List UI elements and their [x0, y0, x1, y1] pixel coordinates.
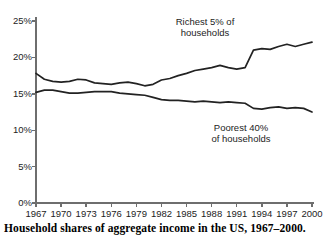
data-series-group: [36, 42, 312, 112]
chart-plot-area: 0%5%10%15%20%25% 19671970197319761979198…: [0, 0, 321, 216]
axes-group: [32, 17, 314, 207]
y-axis-tick-label: 5%: [0, 162, 32, 172]
y-axis-tick-label: 15%: [0, 89, 32, 99]
y-axis-tick-label: 0%: [0, 198, 32, 208]
series-annotation-richest-line2: households: [150, 27, 260, 38]
y-axis-tick-label: 20%: [0, 52, 32, 62]
figure-caption: Household shares of aggregate income in …: [4, 222, 319, 234]
series-annotation-richest-line1: Richest 5% of: [150, 16, 260, 27]
series-annotation-richest: Richest 5% of households: [150, 16, 260, 38]
series-annotation-poorest-line2: of households: [182, 133, 300, 144]
y-axis-tick-label: 10%: [0, 125, 32, 135]
y-axis-tick-label: 25%: [0, 16, 32, 26]
x-axis-tick-label: 2000: [295, 209, 327, 219]
data-line-poorest-40-percent: [36, 90, 312, 112]
data-line-richest-5-percent: [36, 42, 312, 86]
series-annotation-poorest-line1: Poorest 40%: [182, 122, 300, 133]
series-annotation-poorest: Poorest 40% of households: [182, 122, 300, 144]
